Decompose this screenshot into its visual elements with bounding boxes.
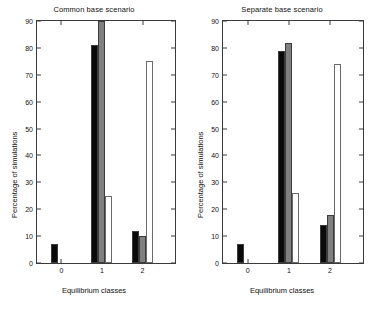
x-axis-tick-label: 1 — [287, 267, 291, 274]
y-axis-tick-mark-right — [359, 182, 363, 183]
y-axis-tick-mark — [37, 155, 41, 156]
y-axis-tick-mark-right — [171, 101, 175, 102]
y-axis-tick-label: 30 — [25, 179, 33, 186]
y-axis-tick-label: 0 — [29, 260, 33, 267]
y-axis-tick-mark-right — [171, 21, 175, 22]
y-axis-tick-mark — [223, 74, 227, 75]
x-axis-tick-label: 0 — [59, 267, 63, 274]
y-axis-tick-label: 30 — [211, 179, 219, 186]
y-axis-tick-mark-right — [171, 263, 175, 264]
y-axis-label-right: Percentage of simulations — [196, 132, 205, 218]
y-axis-tick-mark-right — [171, 128, 175, 129]
y-axis-tick-mark — [37, 209, 41, 210]
y-axis-tick-mark — [37, 21, 41, 22]
x-axis-tick-mark — [247, 259, 248, 263]
x-axis-tick-label: 1 — [100, 267, 104, 274]
x-axis-tick-mark-top — [288, 21, 289, 25]
y-axis-tick-mark-right — [359, 74, 363, 75]
y-axis-tick-mark-right — [171, 74, 175, 75]
y-axis-tick-mark — [37, 74, 41, 75]
y-axis-tick-label: 80 — [211, 44, 219, 51]
y-axis-tick-mark-right — [171, 209, 175, 210]
y-axis-tick-label: 50 — [25, 125, 33, 132]
plot-area-left: 0102030405060708090012 — [36, 20, 176, 264]
y-axis-tick-label: 20 — [211, 206, 219, 213]
bar-black-class-0 — [237, 244, 244, 263]
y-axis-tick-label: 40 — [211, 152, 219, 159]
bar-gray-class-1 — [98, 21, 105, 263]
y-axis-tick-mark — [223, 47, 227, 48]
y-axis-tick-label: 20 — [25, 206, 33, 213]
y-axis-tick-mark — [223, 263, 227, 264]
plot-area-right: 0102030405060708090012 — [222, 20, 364, 264]
bar-white-class-1 — [292, 193, 299, 263]
x-axis-tick-mark-top — [247, 21, 248, 25]
chart-title-left: Common base scenario — [0, 5, 188, 14]
bar-black-class-1 — [91, 45, 98, 263]
x-axis-tick-label: 0 — [246, 267, 250, 274]
y-axis-tick-label: 60 — [25, 98, 33, 105]
y-axis-tick-mark — [37, 263, 41, 264]
y-axis-tick-mark-right — [171, 236, 175, 237]
y-axis-tick-mark-right — [359, 101, 363, 102]
y-axis-tick-label: 10 — [211, 233, 219, 240]
y-axis-tick-mark-right — [359, 155, 363, 156]
y-axis-tick-mark — [223, 101, 227, 102]
y-axis-tick-mark-right — [171, 155, 175, 156]
y-axis-tick-label: 60 — [211, 98, 219, 105]
x-axis-label-left: Equilibrium classes — [0, 286, 188, 295]
y-axis-tick-mark — [223, 182, 227, 183]
bar-black-class-1 — [278, 51, 285, 263]
chart-title-right: Separate base scenario — [188, 5, 376, 14]
chart-panel-common-base: Common base scenario 0102030405060708090… — [0, 0, 188, 315]
bar-black-class-2 — [132, 231, 139, 263]
x-axis-tick-mark-top — [142, 21, 143, 25]
bar-white-class-2 — [146, 61, 153, 263]
y-axis-tick-mark-right — [359, 236, 363, 237]
bar-white-class-1 — [105, 196, 112, 263]
y-axis-tick-label: 50 — [211, 125, 219, 132]
figure-container: Common base scenario 0102030405060708090… — [0, 0, 377, 315]
y-axis-tick-label: 90 — [25, 18, 33, 25]
y-axis-tick-label: 80 — [25, 44, 33, 51]
y-axis-tick-mark-right — [359, 128, 363, 129]
bar-black-class-2 — [320, 225, 327, 263]
y-axis-tick-mark-right — [171, 47, 175, 48]
bar-black-class-0 — [51, 244, 58, 263]
x-axis-tick-label: 2 — [141, 267, 145, 274]
y-axis-tick-mark — [37, 47, 41, 48]
x-axis-tick-mark — [61, 259, 62, 263]
y-axis-tick-mark-right — [359, 21, 363, 22]
x-axis-tick-mark-top — [330, 21, 331, 25]
y-axis-tick-mark — [37, 128, 41, 129]
x-axis-label-right: Equilibrium classes — [188, 286, 376, 295]
y-axis-tick-mark — [223, 128, 227, 129]
y-axis-tick-label: 0 — [215, 260, 219, 267]
y-axis-tick-mark-right — [359, 263, 363, 264]
bar-gray-class-2 — [139, 236, 146, 263]
bar-gray-class-1 — [285, 43, 292, 263]
y-axis-tick-label: 90 — [211, 18, 219, 25]
y-axis-tick-mark — [223, 236, 227, 237]
y-axis-tick-mark — [223, 155, 227, 156]
y-axis-tick-mark — [37, 101, 41, 102]
y-axis-tick-mark — [37, 182, 41, 183]
y-axis-label-left: Percentage of simulations — [10, 132, 19, 218]
x-axis-tick-mark-top — [61, 21, 62, 25]
y-axis-tick-mark-right — [359, 47, 363, 48]
y-axis-tick-label: 70 — [25, 71, 33, 78]
chart-panel-separate-base: Separate base scenario 01020304050607080… — [188, 0, 376, 315]
y-axis-tick-label: 40 — [25, 152, 33, 159]
y-axis-tick-mark — [37, 236, 41, 237]
bar-gray-class-2 — [327, 215, 334, 263]
y-axis-tick-mark — [223, 209, 227, 210]
y-axis-tick-mark-right — [171, 182, 175, 183]
x-axis-tick-label: 2 — [328, 267, 332, 274]
y-axis-tick-mark-right — [359, 209, 363, 210]
y-axis-tick-mark — [223, 21, 227, 22]
y-axis-tick-label: 70 — [211, 71, 219, 78]
bar-white-class-2 — [334, 64, 341, 263]
y-axis-tick-label: 10 — [25, 233, 33, 240]
